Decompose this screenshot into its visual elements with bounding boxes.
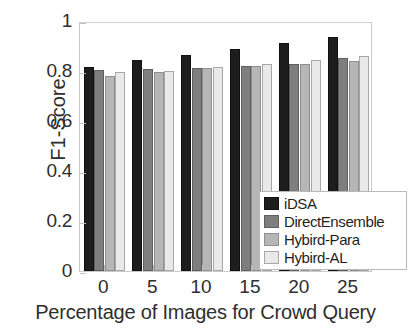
bar: [115, 72, 125, 271]
legend: iDSADirectEnsembleHybird-ParaHybird-AL: [259, 191, 407, 270]
bar: [192, 68, 202, 271]
y-tick-mark: [80, 73, 86, 74]
figure-canvas: F1-Score 00.20.40.60.81 0510152025 Perce…: [0, 0, 411, 331]
legend-label: DirectEnsemble: [284, 214, 384, 229]
x-tick-label: 15: [239, 276, 260, 298]
x-tick-mark: [251, 265, 252, 271]
y-tick-mark: [80, 223, 86, 224]
x-tick-mark: [153, 265, 154, 271]
bar-group: [181, 23, 223, 271]
legend-item[interactable]: DirectEnsemble: [264, 213, 402, 230]
y-tick-label: 0.4: [46, 160, 72, 182]
bar: [202, 68, 212, 271]
y-tick-mark: [80, 173, 86, 174]
legend-label: Hybird-AL: [284, 250, 347, 265]
bar: [164, 71, 174, 271]
legend-swatch-icon: [264, 251, 279, 264]
x-tick-label: 0: [98, 276, 109, 298]
x-tick-label: 10: [191, 276, 212, 298]
y-tick-mark: [80, 123, 86, 124]
legend-label: Hybird-Para: [284, 232, 360, 247]
bar: [154, 72, 164, 271]
x-tick-label: 20: [288, 276, 309, 298]
legend-swatch-icon: [264, 233, 279, 246]
bar-group: [84, 23, 126, 271]
legend-swatch-icon: [264, 215, 279, 228]
bar: [181, 55, 191, 272]
legend-label: iDSA: [284, 196, 317, 211]
y-tick-label: 1: [62, 10, 72, 32]
x-tick-mark: [202, 265, 203, 271]
x-axis-title: Percentage of Images for Crowd Query: [0, 301, 411, 324]
bar: [213, 67, 223, 271]
legend-item[interactable]: Hybird-AL: [264, 249, 402, 266]
y-tick-label: 0: [62, 260, 72, 282]
bar: [105, 76, 115, 271]
legend-item[interactable]: iDSA: [264, 195, 402, 212]
x-tick-label: 25: [337, 276, 358, 298]
bar: [230, 49, 240, 271]
y-tick-label: 0.2: [46, 210, 72, 232]
bar: [94, 70, 104, 271]
x-tick-label: 5: [147, 276, 158, 298]
bar-group: [132, 23, 174, 271]
bar: [84, 67, 94, 271]
y-tick-mark: [80, 273, 86, 274]
bar: [143, 69, 153, 272]
x-tick-mark: [104, 265, 105, 271]
legend-swatch-icon: [264, 197, 279, 210]
y-tick-label: 0.8: [46, 60, 72, 82]
legend-item[interactable]: Hybird-Para: [264, 231, 402, 248]
y-tick-label: 0.6: [46, 110, 72, 132]
bar: [241, 66, 251, 271]
y-tick-mark: [80, 23, 86, 24]
bar: [132, 60, 142, 271]
